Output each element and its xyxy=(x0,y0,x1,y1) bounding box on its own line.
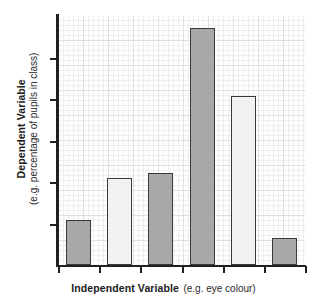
x-axis-title-bold: Independent Variable xyxy=(71,282,179,294)
x-axis-tick xyxy=(99,266,101,273)
y-axis-title: Dependent Variable (e.g. percentage of p… xyxy=(0,0,56,258)
y-axis-title-text: Dependent Variable (e.g. percentage of p… xyxy=(15,53,41,205)
bar-1 xyxy=(66,220,91,265)
x-axis-tick xyxy=(264,266,266,273)
y-axis-tick xyxy=(50,58,57,60)
y-axis-tick xyxy=(50,141,57,143)
x-axis-title-regular: (e.g. eye colour) xyxy=(183,283,255,294)
y-axis-tick xyxy=(50,224,57,226)
bar-5 xyxy=(231,96,256,265)
x-axis-title: Independent Variable (e.g. eye colour) xyxy=(0,278,327,296)
x-axis-tick xyxy=(305,266,307,273)
x-axis-tick xyxy=(223,266,225,273)
bar-chart-figure: Dependent Variable (e.g. percentage of p… xyxy=(0,0,327,299)
bar-4 xyxy=(190,28,215,265)
bar-6 xyxy=(272,238,297,265)
x-axis-tick xyxy=(182,266,184,273)
y-axis-tick xyxy=(50,182,57,184)
bars-layer xyxy=(58,16,305,265)
bar-2 xyxy=(107,178,132,265)
y-axis-tick xyxy=(50,99,57,101)
y-axis-title-bold: Dependent Variable xyxy=(15,53,28,205)
y-axis-title-regular: (e.g. percentage of pupils in class) xyxy=(28,53,41,205)
bar-3 xyxy=(148,173,173,265)
x-axis-tick xyxy=(140,266,142,273)
x-axis-tick xyxy=(58,266,60,273)
